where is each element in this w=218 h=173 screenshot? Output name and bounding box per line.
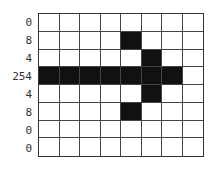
pixel-off <box>39 121 60 139</box>
row-value-2: 4 <box>0 49 32 67</box>
pixel-off <box>60 138 81 156</box>
pixel-off <box>101 121 122 139</box>
pixel-off <box>121 138 142 156</box>
pixel-off <box>39 32 60 50</box>
pixel-off <box>183 67 204 85</box>
pixel-off <box>101 32 122 50</box>
pixel-off <box>80 138 101 156</box>
pixel-on <box>142 67 163 85</box>
pixel-on <box>39 67 60 85</box>
row-value-labels: 0 8 4 254 4 8 0 0 <box>0 13 32 157</box>
pixel-off <box>80 14 101 32</box>
pixel-off <box>39 85 60 103</box>
pixel-on <box>142 85 163 103</box>
pixel-off <box>142 14 163 32</box>
pixel-off <box>39 138 60 156</box>
row-value-6: 0 <box>0 121 32 139</box>
pixel-off <box>162 138 183 156</box>
pixel-off <box>101 85 122 103</box>
pixel-off <box>101 14 122 32</box>
pixel-off <box>80 50 101 68</box>
pixel-off <box>39 50 60 68</box>
row-value-5: 8 <box>0 103 32 121</box>
pixel-grid <box>38 13 204 157</box>
pixel-off <box>142 103 163 121</box>
row-value-1: 8 <box>0 31 32 49</box>
pixel-off <box>80 103 101 121</box>
pixel-on <box>121 103 142 121</box>
pixel-on <box>142 50 163 68</box>
pixel-off <box>101 103 122 121</box>
pixel-off <box>101 50 122 68</box>
pixel-off <box>162 103 183 121</box>
row-value-4: 4 <box>0 85 32 103</box>
pixel-on <box>101 67 122 85</box>
pixel-on <box>80 67 101 85</box>
pixel-off <box>162 14 183 32</box>
pixel-off <box>101 138 122 156</box>
pixel-off <box>60 85 81 103</box>
pixel-off <box>183 14 204 32</box>
pixel-off <box>60 103 81 121</box>
pixel-off <box>162 85 183 103</box>
pixel-off <box>80 32 101 50</box>
pixel-off <box>142 32 163 50</box>
pixel-off <box>39 103 60 121</box>
pixel-off <box>162 32 183 50</box>
pixel-off <box>60 121 81 139</box>
pixel-off <box>183 138 204 156</box>
pixel-off <box>121 14 142 32</box>
pixel-off <box>121 121 142 139</box>
pixel-off <box>60 14 81 32</box>
pixel-off <box>80 121 101 139</box>
pixel-off <box>80 85 101 103</box>
pixel-off <box>142 138 163 156</box>
row-value-0: 0 <box>0 13 32 31</box>
pixel-off <box>183 32 204 50</box>
pixel-off <box>183 85 204 103</box>
pixel-on <box>121 67 142 85</box>
pixel-off <box>183 121 204 139</box>
pixel-off <box>60 32 81 50</box>
pixel-on <box>162 67 183 85</box>
pixel-off <box>121 85 142 103</box>
pixel-on <box>60 67 81 85</box>
pixel-off <box>183 50 204 68</box>
row-value-7: 0 <box>0 139 32 157</box>
pixel-off <box>142 121 163 139</box>
pixel-off <box>162 121 183 139</box>
pixel-off <box>60 50 81 68</box>
pixel-on <box>121 32 142 50</box>
pixel-off <box>121 50 142 68</box>
pixel-off <box>183 103 204 121</box>
pixel-off <box>162 50 183 68</box>
row-value-3: 254 <box>0 67 32 85</box>
pixel-off <box>39 14 60 32</box>
